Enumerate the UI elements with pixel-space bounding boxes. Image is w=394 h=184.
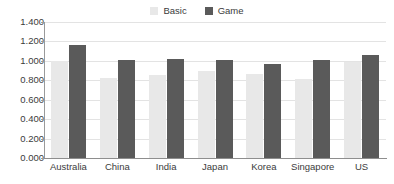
y-axis: 1.4001.2001.0000.8000.6000.4000.2000.000 xyxy=(0,22,44,158)
bar-group xyxy=(142,22,191,158)
legend-entry-basic[interactable]: Basic xyxy=(150,6,186,16)
y-axis-tick-label: 1.200 xyxy=(4,37,44,47)
bar-basic-australia[interactable] xyxy=(51,61,68,158)
y-axis-tick-label: 0.400 xyxy=(4,114,44,124)
bar-game-china[interactable] xyxy=(118,60,135,158)
square-swatch-icon xyxy=(150,7,158,15)
bar-game-india[interactable] xyxy=(167,59,184,158)
bar-game-korea[interactable] xyxy=(264,64,281,158)
bar-group xyxy=(239,22,288,158)
y-axis-tick-label: 0.600 xyxy=(4,95,44,105)
y-axis-tick-label: 0.200 xyxy=(4,134,44,144)
y-axis-tick-label: 0.800 xyxy=(4,76,44,86)
bar-group xyxy=(191,22,240,158)
chart-legend: Basic Game xyxy=(0,4,394,18)
y-axis-tick-label: 1.400 xyxy=(4,17,44,27)
x-axis-label-singapore: Singapore xyxy=(288,162,337,172)
x-axis-label-us: US xyxy=(337,162,386,172)
bar-game-australia[interactable] xyxy=(69,45,86,158)
bar-basic-us[interactable] xyxy=(344,62,361,158)
x-axis-line xyxy=(44,158,387,159)
legend-label-basic: Basic xyxy=(163,6,186,16)
bar-group xyxy=(93,22,142,158)
x-axis-label-japan: Japan xyxy=(191,162,240,172)
bar-game-us[interactable] xyxy=(362,55,379,158)
bar-group xyxy=(288,22,337,158)
bar-basic-india[interactable] xyxy=(149,75,166,158)
x-axis-labels: AustraliaChinaIndiaJapanKoreaSingaporeUS xyxy=(44,162,386,172)
x-axis-label-australia: Australia xyxy=(44,162,93,172)
x-axis-label-korea: Korea xyxy=(239,162,288,172)
bar-basic-singapore[interactable] xyxy=(295,79,312,158)
bar-chart: Basic Game 1.4001.2001.0000.8000.6000.40… xyxy=(0,0,394,184)
bar-basic-korea[interactable] xyxy=(246,74,263,158)
legend-label-game: Game xyxy=(218,6,244,16)
bar-series-container xyxy=(44,22,386,158)
y-axis-tick-label: 0.000 xyxy=(4,153,44,163)
bar-group xyxy=(44,22,93,158)
bar-basic-china[interactable] xyxy=(100,78,117,158)
legend-entry-game[interactable]: Game xyxy=(205,6,244,16)
y-axis-tick-label: 1.000 xyxy=(4,56,44,66)
x-axis-label-china: China xyxy=(93,162,142,172)
square-swatch-icon xyxy=(205,7,213,15)
bar-group xyxy=(337,22,386,158)
bar-basic-japan[interactable] xyxy=(198,71,215,158)
bar-game-singapore[interactable] xyxy=(313,60,330,158)
bar-game-japan[interactable] xyxy=(216,60,233,158)
x-axis-label-india: India xyxy=(142,162,191,172)
